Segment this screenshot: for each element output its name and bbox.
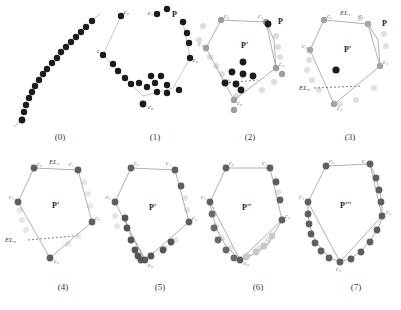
label-c4: c₄ <box>9 194 14 200</box>
label-EL1: EL₁ <box>48 158 60 166</box>
panel-5-graphic: c₀ c₁ c₂ c₃ c₄ P' <box>105 152 205 280</box>
caption-panel-6: (6) <box>238 282 278 292</box>
label-c0: c₀ <box>224 13 229 19</box>
label-c3: c₃ <box>148 262 153 268</box>
label-EL3: EL₃ <box>4 236 16 244</box>
label-c4: c₄ <box>299 194 304 200</box>
panel-6: c₀ c₁ c₂ c₃ c₄ P'' <box>200 152 300 280</box>
label-c4: c₄ <box>198 41 203 47</box>
p3-point-labels: c₀ c₁ c₂ c₃ c₄ <box>302 13 388 111</box>
label-c3: c₃ <box>337 105 342 111</box>
panel-1: c₀ c₁ c₂ c₃ c₄ P <box>95 0 205 132</box>
panel-1-graphic: c₀ c₁ c₂ c₃ c₄ P <box>95 0 205 132</box>
p4-dashed-chord <box>28 236 74 240</box>
label-c2: c₂ <box>383 59 388 65</box>
label-c2: c₂ <box>386 209 391 215</box>
caption-panel-7: (7) <box>336 282 376 292</box>
caption-panel-4: (4) <box>43 282 83 292</box>
label-c0: c₀ <box>134 160 139 166</box>
label-c1: c₁ <box>262 160 267 166</box>
label-c4: c₄ <box>97 48 102 54</box>
label-c0: c₀ <box>329 158 334 164</box>
label-c3: c₃ <box>237 100 242 106</box>
label-c3: c₃ <box>244 260 249 266</box>
label-c1: c₁ <box>359 13 364 19</box>
panel-2: c₀ c₁ c₂ c₃ c₄ P P' <box>196 0 301 132</box>
label-c1: c₁ <box>69 161 74 167</box>
caption-panel-3: (3) <box>330 132 370 142</box>
label-c1: c₁ <box>166 160 171 166</box>
figure-canvas: (0) <box>0 0 401 310</box>
caption-panel-5: (5) <box>140 282 180 292</box>
label-c0: c₀ <box>229 160 234 166</box>
p6-ghost-dots <box>211 177 281 259</box>
label-c1: c₁ <box>258 13 263 19</box>
panel-4: c₀ c₁ c₂ c₃ c₄ EL₁ EL₃ P' <box>6 152 111 280</box>
region-label-P: P <box>278 17 283 26</box>
label-c0: c₀ <box>124 9 129 15</box>
caption-panel-0: (0) <box>40 132 80 142</box>
label-c1: c₁ <box>148 10 153 16</box>
label-EL1: EL₁ <box>339 9 351 17</box>
caption-panel-2: (2) <box>230 132 270 142</box>
panel-7-graphic: c₀ c₁ c₂ c₃ c₄ P''' <box>298 152 401 280</box>
label-c3: c₃ <box>336 266 341 272</box>
panel-6-graphic: c₀ c₁ c₂ c₃ c₄ P'' <box>200 152 300 280</box>
region-label-P: P <box>382 19 387 28</box>
label-c2: c₂ <box>279 61 284 67</box>
region-label-P1: P' <box>149 203 156 212</box>
p5-vertex-dots <box>112 165 193 264</box>
p1-dots <box>100 6 193 108</box>
caption-panel-1: (1) <box>135 132 175 142</box>
p0-edges <box>14 14 100 127</box>
panel-4-graphic: c₀ c₁ c₂ c₃ c₄ EL₁ EL₃ P' <box>6 152 111 280</box>
p5-edges <box>115 168 189 260</box>
region-label-P1: P' <box>241 41 248 50</box>
p4-ghost-dots <box>17 179 93 247</box>
panel-7: c₀ c₁ c₂ c₃ c₄ P''' <box>298 152 401 280</box>
p7-edges <box>308 164 382 262</box>
label-c0: c₀ <box>327 13 332 19</box>
p5-refined-dots <box>122 215 175 264</box>
p5-point-labels: c₀ c₁ c₂ c₃ c₄ <box>106 160 197 268</box>
label-c2: c₂ <box>192 215 197 221</box>
label-c2: c₂ <box>285 213 290 219</box>
label-c4: c₄ <box>302 43 307 49</box>
label-c3: c₃ <box>54 258 59 264</box>
label-c2: c₂ <box>95 215 100 221</box>
label-EL3: EL₃ <box>298 84 310 92</box>
region-label-P: P <box>172 10 177 19</box>
p0-dot-chain <box>19 18 96 124</box>
p7-boundary-dots <box>305 161 386 266</box>
label-c0: c₀ <box>37 161 42 167</box>
label-c4: c₄ <box>201 194 206 200</box>
panel-2-graphic: c₀ c₁ c₂ c₃ c₄ P P' <box>196 0 301 132</box>
p4-edges <box>18 168 92 258</box>
label-c3: c₃ <box>148 104 153 110</box>
region-label-P2: P'' <box>242 203 251 212</box>
label-c4: c₄ <box>106 194 111 200</box>
label-c1: c₁ <box>362 158 367 164</box>
region-label-P3: P''' <box>340 201 352 210</box>
p6-edges <box>210 168 282 260</box>
panel-3-graphic: c₀ c₁ c₂ c₃ c₄ EL₁ EL₃ P P' <box>300 0 401 132</box>
region-label-P1: P' <box>344 45 351 54</box>
panel-5: c₀ c₁ c₂ c₃ c₄ P' <box>105 152 205 280</box>
panel-3: c₀ c₁ c₂ c₃ c₄ EL₁ EL₃ P P' <box>300 0 401 132</box>
p3-interior-dot <box>332 66 339 73</box>
p4-point-labels: c₀ c₁ c₂ c₃ c₄ <box>9 161 100 264</box>
region-label-P1: P' <box>52 201 59 210</box>
